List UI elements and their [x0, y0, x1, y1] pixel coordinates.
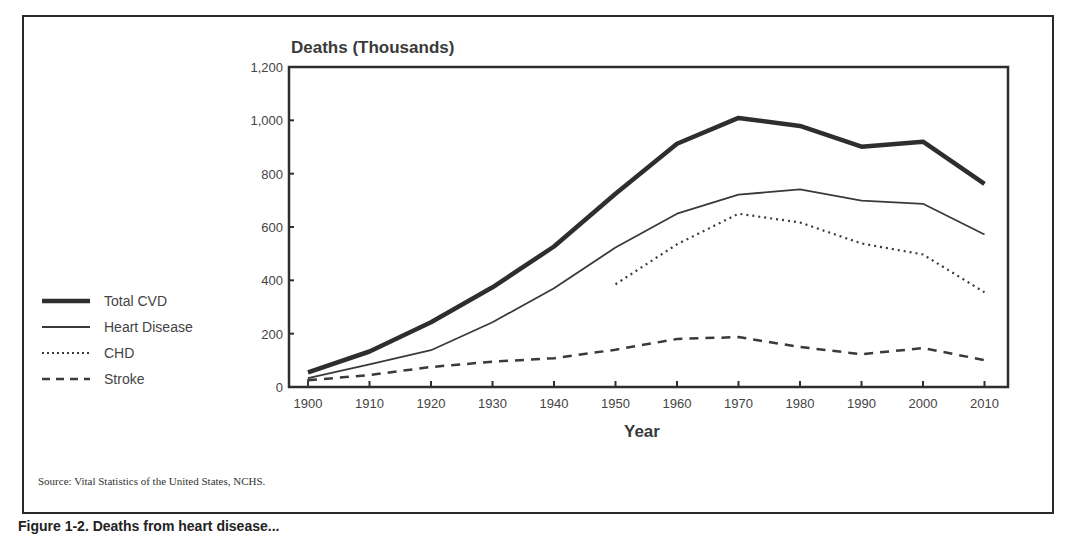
legend-label: CHD	[104, 345, 134, 361]
x-tick-label: 1910	[355, 396, 384, 411]
y-tick-label: 800	[261, 167, 283, 182]
x-tick-label: 1980	[786, 396, 815, 411]
dashed-line-icon	[42, 374, 90, 384]
y-tick-label: 1,200	[250, 60, 283, 75]
legend-item-stroke: Stroke	[42, 366, 193, 392]
y-tick-label: 1,000	[250, 113, 283, 128]
x-tick-label: 1970	[724, 396, 753, 411]
legend: Total CVD Heart Disease CHD Stroke	[42, 288, 193, 392]
legend-item-total-cvd: Total CVD	[42, 288, 193, 314]
series-stroke	[308, 337, 985, 380]
thick-solid-line-icon	[42, 296, 90, 306]
series-heart-disease	[308, 189, 985, 378]
legend-item-heart-disease: Heart Disease	[42, 314, 193, 340]
y-tick-label: 200	[261, 327, 283, 342]
legend-item-chd: CHD	[42, 340, 193, 366]
data-series	[308, 118, 985, 387]
x-tick-label: 1920	[417, 396, 446, 411]
x-tick-label: 2000	[909, 396, 938, 411]
x-tick-label: 1960	[663, 396, 692, 411]
y-tick-label: 0	[276, 380, 283, 395]
y-tick-label: 600	[261, 220, 283, 235]
x-tick-label: 2010	[970, 396, 999, 411]
series-chd	[616, 214, 985, 293]
figure-caption: Figure 1-2. Deaths from heart disease...	[18, 518, 279, 534]
x-tick-label: 1930	[478, 396, 507, 411]
y-axis: 02004006008001,0001,200	[250, 60, 294, 395]
thin-solid-line-icon	[42, 322, 90, 332]
legend-label: Stroke	[104, 371, 144, 387]
source-note: Source: Vital Statistics of the United S…	[38, 475, 265, 487]
series-total-cvd	[308, 118, 985, 372]
x-axis: 1900191019201930194019501960197019801990…	[294, 381, 999, 411]
x-tick-label: 1990	[847, 396, 876, 411]
x-tick-label: 1940	[540, 396, 569, 411]
x-tick-label: 1950	[601, 396, 630, 411]
dotted-line-icon	[42, 348, 90, 358]
y-tick-label: 400	[261, 273, 283, 288]
legend-label: Total CVD	[104, 293, 167, 309]
x-tick-label: 1900	[294, 396, 323, 411]
legend-label: Heart Disease	[104, 319, 193, 335]
